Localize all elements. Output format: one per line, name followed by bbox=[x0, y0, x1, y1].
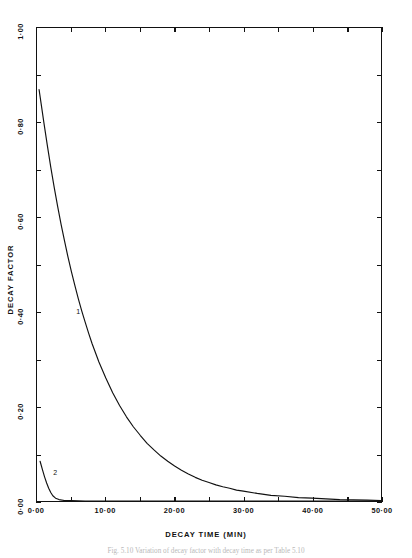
y-axis-tick bbox=[36, 27, 41, 28]
y-axis-tick bbox=[377, 170, 382, 171]
y-axis-tick bbox=[377, 502, 382, 503]
y-axis-tick bbox=[377, 455, 382, 456]
figure-container: DECAY FACTOR 0·0010·0020·0030·0040·0050·… bbox=[0, 0, 412, 558]
x-axis-tick bbox=[140, 27, 141, 32]
x-axis-tick bbox=[174, 27, 175, 32]
x-tick-label: 40·00 bbox=[302, 506, 323, 515]
x-axis-tick bbox=[278, 27, 279, 32]
x-axis-tick bbox=[347, 27, 348, 32]
y-axis-tick bbox=[36, 265, 41, 266]
curve-layer bbox=[37, 28, 381, 501]
x-axis-tick bbox=[278, 497, 279, 502]
y-tick-label: 0·80 bbox=[16, 118, 25, 135]
y-axis-tick bbox=[36, 312, 41, 313]
y-axis-title: DECAY FACTOR bbox=[6, 245, 15, 315]
y-axis-tick bbox=[36, 217, 41, 218]
x-axis-title: DECAY TIME (MIN) bbox=[0, 530, 412, 539]
y-axis-tick bbox=[36, 360, 41, 361]
x-axis-tick bbox=[313, 497, 314, 502]
y-tick-label: 0·00 bbox=[16, 498, 25, 515]
figure-caption: Fig. 5.10 Variation of decay factor with… bbox=[0, 547, 412, 558]
x-axis-tick bbox=[244, 27, 245, 32]
y-axis-tick bbox=[36, 75, 41, 76]
x-tick-label: 50·00 bbox=[371, 506, 392, 515]
curve-series-1 bbox=[39, 89, 381, 500]
plot-frame bbox=[36, 27, 382, 502]
y-axis-tick bbox=[36, 407, 41, 408]
y-tick-label: 1·00 bbox=[16, 23, 25, 40]
y-axis-tick bbox=[377, 217, 382, 218]
x-axis-tick bbox=[244, 497, 245, 502]
y-axis-tick bbox=[377, 265, 382, 266]
y-axis-tick bbox=[36, 170, 41, 171]
x-axis-tick bbox=[105, 27, 106, 32]
y-axis-tick bbox=[377, 122, 382, 123]
x-axis-tick bbox=[382, 27, 383, 32]
x-axis-tick bbox=[382, 497, 383, 502]
x-axis-tick bbox=[71, 27, 72, 32]
x-tick-label: 30·00 bbox=[233, 506, 254, 515]
x-tick-label: 20·00 bbox=[164, 506, 185, 515]
y-axis-tick bbox=[377, 360, 382, 361]
x-axis-tick bbox=[105, 497, 106, 502]
y-axis-tick bbox=[377, 407, 382, 408]
y-axis-tick bbox=[377, 312, 382, 313]
y-axis-tick bbox=[377, 75, 382, 76]
x-axis-tick bbox=[347, 497, 348, 502]
x-axis-tick bbox=[174, 497, 175, 502]
y-axis-tick bbox=[36, 502, 41, 503]
x-axis-tick bbox=[71, 497, 72, 502]
x-axis-tick bbox=[140, 497, 141, 502]
y-tick-label: 0·60 bbox=[16, 213, 25, 230]
curve-label-2: 2 bbox=[53, 469, 57, 476]
x-axis-tick bbox=[313, 27, 314, 32]
x-axis-tick bbox=[209, 497, 210, 502]
y-tick-label: 0·20 bbox=[16, 403, 25, 420]
x-axis-tick bbox=[209, 27, 210, 32]
x-tick-label: 0·00 bbox=[28, 506, 45, 515]
curve-label-1: 1 bbox=[76, 308, 80, 315]
x-tick-label: 10·00 bbox=[95, 506, 116, 515]
y-tick-label: 0·40 bbox=[16, 308, 25, 325]
y-axis-tick bbox=[36, 122, 41, 123]
y-axis-tick bbox=[36, 455, 41, 456]
y-axis-tick bbox=[377, 27, 382, 28]
curve-series-2 bbox=[40, 461, 381, 501]
